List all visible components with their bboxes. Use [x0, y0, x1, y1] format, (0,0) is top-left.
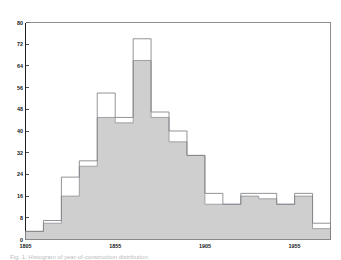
x-tick-label: 1955 [289, 243, 301, 249]
histogram-series-filled [26, 60, 331, 239]
y-tick-label: 8 [20, 215, 23, 221]
y-tick-label: 16 [17, 193, 23, 199]
y-tick-label: 80 [17, 20, 23, 26]
y-tick-label: 56 [17, 85, 23, 91]
figure-container: 08162432404856647280 1805185519051955 Fi… [0, 0, 341, 260]
x-tick-label: 1855 [109, 243, 121, 249]
y-axis-tick-labels: 08162432404856647280 [17, 20, 23, 243]
x-tick-label: 1805 [20, 243, 32, 249]
y-tick-label: 64 [17, 63, 23, 69]
y-tick-label: 24 [17, 171, 23, 177]
x-tick-label: 1905 [199, 243, 211, 249]
y-tick-label: 72 [17, 41, 23, 47]
histogram-chart: 08162432404856647280 1805185519051955 [0, 0, 341, 260]
figure-caption: Fig. 1. Histogram of year-of-constructio… [10, 254, 335, 260]
y-tick-label: 32 [17, 150, 23, 156]
y-tick-label: 40 [17, 128, 23, 134]
x-axis-tick-labels: 1805185519051955 [20, 243, 301, 249]
y-tick-label: 48 [17, 106, 23, 112]
